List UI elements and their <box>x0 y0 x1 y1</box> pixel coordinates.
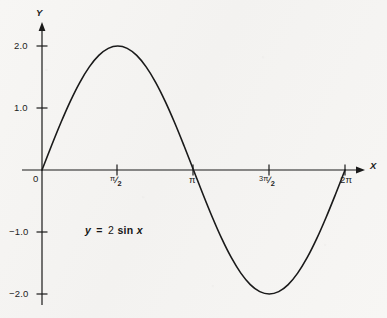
y-tick-label-1: 1.0 <box>14 102 28 113</box>
x-axis-arrowhead <box>356 167 365 174</box>
x-tick-label-pi: π <box>189 174 196 185</box>
y-axis-label: Y <box>36 7 42 18</box>
equation-function: sin <box>117 224 133 236</box>
x-tick-label-three-pi-over-2: 3π/2 <box>259 174 275 185</box>
x-tick-label-two-pi: 2π <box>340 174 352 185</box>
equation-lhs: y <box>85 224 91 236</box>
equation-coefficient: 2 <box>108 224 114 236</box>
equation-equals: = <box>94 224 104 236</box>
y-axis-arrowhead <box>39 22 46 31</box>
x-axis-label: X <box>370 160 376 171</box>
y-tick-label-minus-2: −2.0 <box>9 288 29 299</box>
fraction-denominator: 2 <box>118 179 122 188</box>
fraction-denominator: 2 <box>271 179 275 188</box>
plot-area <box>0 0 387 318</box>
y-tick-label-minus-1: −1.0 <box>9 226 29 237</box>
equation-annotation: y = 2 sin x <box>85 224 143 236</box>
x-tick-label-pi-over-2: π/2 <box>110 174 122 185</box>
origin-label: 0 <box>33 173 38 184</box>
fraction-pi-over-2: π/2 <box>110 175 122 185</box>
fraction-three-pi-over-2: 3π/2 <box>259 175 275 185</box>
equation-argument: x <box>137 224 143 236</box>
y-tick-label-2: 2.0 <box>14 40 28 51</box>
figure-canvas: Y X 0 π/2 π 3π/2 2π 2.0 1.0 −1.0 −2.0 y … <box>0 0 387 318</box>
